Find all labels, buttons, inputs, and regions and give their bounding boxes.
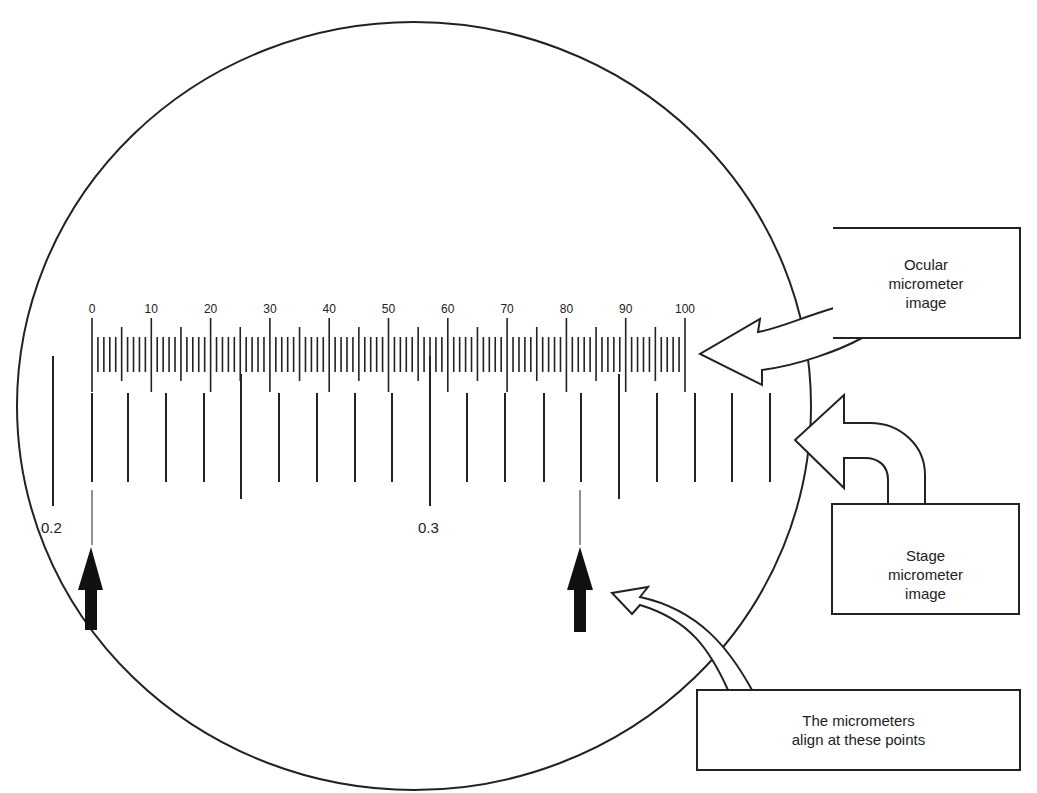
- ocular-scale-label: 0: [89, 302, 96, 316]
- stage-micrometer-scale: [53, 356, 770, 506]
- stage-label-0-3: 0.3: [418, 519, 439, 536]
- ocular-scale-label: 20: [204, 302, 217, 316]
- ocular-scale-label: 60: [441, 302, 454, 316]
- ocular-scale-label: 70: [500, 302, 513, 316]
- stage-micrometer-callout: Stage micrometer image: [831, 503, 1020, 615]
- stage-callout-arrow-icon: [795, 395, 925, 503]
- ocular-scale-label: 50: [382, 302, 395, 316]
- alignment-callout: The micrometers align at these points: [696, 689, 1021, 771]
- ocular-scale-label: 30: [263, 302, 276, 316]
- stage-label-0-2: 0.2: [41, 519, 62, 536]
- ocular-scale-label: 40: [323, 302, 336, 316]
- ocular-scale-label: 100: [675, 302, 695, 316]
- ocular-scale-label: 90: [619, 302, 632, 316]
- micrometer-diagram: [0, 0, 1037, 793]
- ocular-scale-label: 10: [145, 302, 158, 316]
- ocular-micrometer-scale: [92, 318, 685, 392]
- ocular-micrometer-callout: Ocular micrometer image: [833, 227, 1021, 339]
- right-alignment-arrow-icon: [567, 547, 593, 632]
- field-of-view-circle: [17, 22, 811, 790]
- ocular-scale-label: 80: [560, 302, 573, 316]
